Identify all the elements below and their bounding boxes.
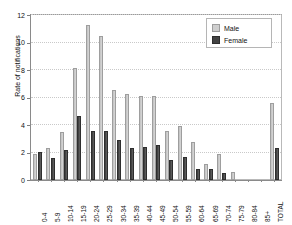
bar-female bbox=[183, 157, 187, 180]
x-tick-mark bbox=[103, 180, 104, 182]
bar-female bbox=[275, 148, 279, 180]
x-tick-mark bbox=[235, 180, 236, 182]
y-tick-label: 4 bbox=[3, 122, 25, 129]
x-tick-label: TOTAL bbox=[277, 202, 284, 222]
y-tick-label: 0 bbox=[3, 177, 25, 184]
x-tick-label: 0-4 bbox=[41, 213, 48, 222]
x-tick-mark bbox=[195, 180, 196, 182]
bar-group bbox=[31, 15, 44, 180]
bar-female bbox=[196, 169, 200, 180]
x-tick-mark bbox=[156, 180, 157, 182]
bar-group bbox=[176, 15, 189, 180]
bar-male bbox=[270, 103, 274, 180]
x-tick-label: 15-19 bbox=[80, 205, 87, 222]
bar-male bbox=[60, 132, 64, 180]
bar-male bbox=[112, 90, 116, 180]
bar-group bbox=[149, 15, 162, 180]
bar-female bbox=[130, 148, 134, 180]
bar-female bbox=[91, 131, 95, 181]
legend-label-female: Female bbox=[224, 36, 247, 45]
x-tick-label: 10-14 bbox=[67, 205, 74, 222]
x-tick-label: 25-29 bbox=[106, 205, 113, 222]
y-tick-mark bbox=[27, 98, 30, 99]
y-tick-mark bbox=[27, 125, 30, 126]
x-tick-mark bbox=[130, 180, 131, 182]
bar-female bbox=[156, 145, 160, 180]
y-axis-title: Rate of notifications bbox=[14, 18, 22, 114]
x-tick-mark bbox=[209, 180, 210, 182]
bar-female bbox=[38, 152, 42, 180]
female-swatch-icon bbox=[212, 36, 220, 44]
x-tick-mark bbox=[169, 180, 170, 182]
x-tick-mark bbox=[143, 180, 144, 182]
bar-female bbox=[64, 150, 68, 180]
y-tick-mark bbox=[27, 180, 30, 181]
x-tick-mark bbox=[248, 180, 249, 182]
bar-female bbox=[104, 131, 108, 181]
y-tick-mark bbox=[27, 43, 30, 44]
x-tick-mark bbox=[261, 180, 262, 182]
bar-group bbox=[57, 15, 70, 180]
x-tick-mark bbox=[90, 180, 91, 182]
x-tick-label: 30-34 bbox=[120, 205, 127, 222]
bar-group bbox=[84, 15, 97, 180]
x-tick-mark bbox=[182, 180, 183, 182]
bar-female bbox=[209, 169, 213, 180]
bar-male bbox=[139, 96, 143, 180]
y-tick-label: 2 bbox=[3, 149, 25, 156]
bar-male bbox=[99, 36, 103, 180]
y-tick-mark bbox=[27, 15, 30, 16]
x-axis: 0-45-910-1415-1920-2425-2930-3435-3940-4… bbox=[31, 182, 281, 225]
x-tick-mark bbox=[64, 180, 65, 182]
bar-male bbox=[73, 68, 77, 180]
bar-group bbox=[110, 15, 123, 180]
bar-group bbox=[136, 15, 149, 180]
x-tick-mark bbox=[274, 180, 275, 182]
x-tick-label: 85+ bbox=[264, 211, 271, 222]
bar-chart: 024681012 Rate of notifications 0-45-910… bbox=[0, 0, 292, 225]
x-tick-label: 55-59 bbox=[185, 205, 192, 222]
x-tick-mark bbox=[117, 180, 118, 182]
x-tick-label: 65-69 bbox=[212, 205, 219, 222]
x-tick-mark bbox=[51, 180, 52, 182]
bar-male bbox=[178, 126, 182, 180]
y-tick-mark bbox=[27, 153, 30, 154]
bar-group bbox=[44, 15, 57, 180]
bar-male bbox=[204, 164, 208, 181]
bar-group bbox=[163, 15, 176, 180]
bar-male bbox=[152, 96, 156, 180]
x-tick-label: 45-49 bbox=[159, 205, 166, 222]
male-swatch-icon bbox=[212, 24, 220, 32]
bar-male bbox=[165, 131, 169, 180]
x-tick-label: 80-84 bbox=[251, 205, 258, 222]
bar-male bbox=[191, 142, 195, 180]
x-tick-mark bbox=[77, 180, 78, 182]
bar-female bbox=[143, 147, 147, 180]
y-tick-mark bbox=[27, 70, 30, 71]
bar-male bbox=[46, 148, 50, 180]
x-tick-mark bbox=[222, 180, 223, 182]
x-tick-label: 40-44 bbox=[146, 205, 153, 222]
legend: Male Female bbox=[206, 18, 272, 48]
legend-label-male: Male bbox=[224, 24, 239, 33]
bar-female bbox=[77, 116, 81, 180]
bar-female bbox=[51, 158, 55, 180]
x-tick-label: 20-24 bbox=[93, 205, 100, 222]
bar-female bbox=[169, 160, 173, 180]
x-tick-label: 5-9 bbox=[54, 213, 61, 222]
bar-group bbox=[123, 15, 136, 180]
bar-group bbox=[97, 15, 110, 180]
bar-male bbox=[217, 154, 221, 180]
x-tick-mark bbox=[38, 180, 39, 182]
x-tick-label: 60-64 bbox=[198, 205, 205, 222]
x-tick-label: 75-79 bbox=[238, 205, 245, 222]
x-tick-label: 70-74 bbox=[225, 205, 232, 222]
x-tick-label: 35-39 bbox=[133, 205, 140, 222]
bar-male bbox=[231, 172, 235, 180]
bar-male bbox=[86, 25, 90, 180]
x-tick-label: 50-54 bbox=[172, 205, 179, 222]
bar-group bbox=[189, 15, 202, 180]
bar-female bbox=[222, 173, 226, 180]
bar-female bbox=[117, 140, 121, 180]
bar-group bbox=[70, 15, 83, 180]
